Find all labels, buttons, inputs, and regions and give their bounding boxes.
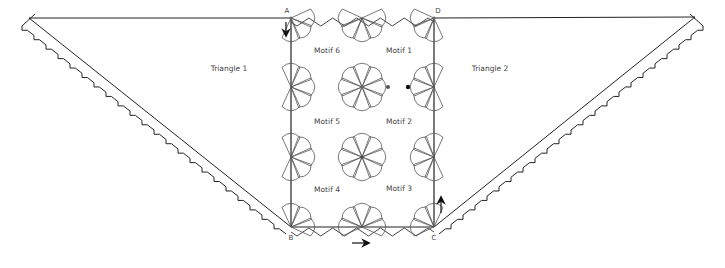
motif-panel-frame [291,18,434,227]
corner-a-label: A [285,7,290,15]
triangle-2-shape [434,14,703,234]
corner-b-label: B [289,234,294,242]
motif-6-label: Motif 6 [314,46,340,55]
corner-d-label: D [435,7,440,15]
motif-3-label: Motif 3 [386,184,412,193]
triangle-1-label: Triangle 1 [211,64,248,73]
motif-pattern [282,9,443,236]
motif-5-label: Motif 5 [314,117,340,126]
marker-dots [289,16,435,158]
shawl-construction-diagram [0,0,725,268]
motif-1-label: Motif 1 [386,46,412,55]
triangle-2-label: Triangle 2 [472,64,509,73]
triangle-1-shape [22,14,291,234]
motif-2-label: Motif 2 [386,117,412,126]
motif-4-label: Motif 4 [314,185,340,194]
corner-c-label: C [432,234,437,242]
